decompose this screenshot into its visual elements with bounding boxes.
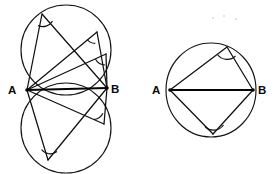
lower-circle	[21, 83, 111, 173]
chord-B-to-bottom-vertex	[213, 90, 253, 134]
chord-B-to-vertex-lower-right	[104, 88, 107, 124]
chord-A-to-vertex-bottom	[27, 90, 48, 160]
chord-A-to-top-vertex	[170, 47, 227, 90]
diagram-root: A B A B	[0, 0, 273, 174]
chord-AB-left	[27, 88, 107, 90]
point-label-A-right: A	[152, 84, 160, 96]
right-figure: A B	[152, 43, 266, 137]
chord-A-to-vertex-top	[27, 14, 42, 90]
left-figure: A B	[8, 5, 119, 173]
chord-B-to-vertex-upper-right	[97, 32, 107, 88]
point-label-B-left: B	[111, 83, 119, 95]
geometry-diagram: A B A B	[0, 0, 273, 174]
angle-arc-vertex-lower-right	[94, 113, 103, 119]
point-A-left-dot	[25, 88, 29, 92]
angle-arc-vertex-upper-right	[87, 40, 95, 44]
point-B-right-dot	[251, 88, 255, 92]
scan-noise	[95, 15, 237, 31]
angle-arc-vertex-right	[96, 59, 106, 65]
chord-B-to-vertex-bottom	[48, 88, 107, 160]
point-label-B-right: B	[258, 84, 266, 96]
point-label-A-left: A	[8, 84, 16, 96]
chord-A-to-vertex-upper-right	[27, 32, 97, 90]
point-B-left-dot	[105, 86, 109, 90]
point-A-right-dot	[168, 88, 172, 92]
